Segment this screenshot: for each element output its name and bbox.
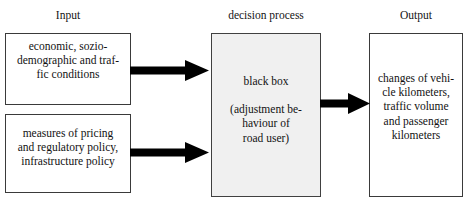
box-black-box-title: black box (212, 34, 320, 88)
arrow-right-icon-policy-to-process (130, 142, 209, 163)
box-input-policy-text: measures of pricing and regulatory polic… (6, 115, 130, 169)
column-header-output: Output (369, 9, 463, 22)
box-input-policy: measures of pricing and regulatory polic… (5, 114, 131, 193)
box-output-changes: changes of vehi- cle kilometers, traffic… (369, 33, 463, 197)
arrow-right-icon-process-to-output (320, 93, 370, 114)
box-black-box: black box (adjustment be- haviour of roa… (211, 33, 321, 197)
column-header-decision-process: decision process (211, 9, 321, 22)
column-header-input: Input (5, 9, 131, 22)
arrow-right-icon-conditions-to-process (130, 60, 209, 81)
box-black-box-subtitle: (adjustment be- haviour of road user) (212, 88, 320, 145)
box-input-conditions: economic, sozio- demographic and traf- f… (5, 33, 131, 105)
box-input-conditions-text: economic, sozio- demographic and traf- f… (6, 34, 130, 82)
box-output-changes-text: changes of vehi- cle kilometers, traffic… (370, 34, 462, 142)
diagram-canvas: Input decision process Output economic, … (0, 0, 473, 211)
